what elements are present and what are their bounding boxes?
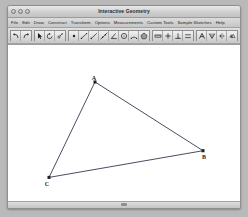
segments-layer <box>49 82 203 177</box>
toolbar <box>8 28 240 44</box>
segment-CA[interactable] <box>49 82 95 177</box>
polygon-icon <box>140 32 148 40</box>
vertex-label-A[interactable]: A <box>92 75 97 81</box>
rotate-button[interactable] <box>45 31 55 41</box>
horizontal-scrollbar[interactable] <box>8 201 240 208</box>
perpendicular-icon <box>174 32 182 40</box>
rotate-icon <box>46 32 54 40</box>
text-label-button[interactable] <box>197 31 207 41</box>
marker-icon <box>208 32 216 40</box>
point-button[interactable] <box>69 31 79 41</box>
toolbar-group-annotation <box>196 30 238 41</box>
menu-item-custom-tools[interactable]: Custom Tools <box>147 18 174 27</box>
geometry-sketch[interactable]: ABC <box>8 45 240 201</box>
vertex-point-C[interactable] <box>48 176 51 179</box>
polygon-button[interactable] <box>139 31 149 41</box>
vertex-point-B[interactable] <box>202 149 205 152</box>
vertex-label-C[interactable]: C <box>45 181 49 187</box>
toolbar-group-measurement <box>152 30 194 41</box>
vertex-label-B[interactable]: B <box>202 154 206 160</box>
perpendicular-button[interactable] <box>173 31 183 41</box>
window-title: Interactive Geometry <box>8 6 240 17</box>
parallel-button[interactable] <box>183 31 193 41</box>
labels-layer: ABC <box>45 75 206 187</box>
point-icon <box>70 32 78 40</box>
arc-button[interactable] <box>129 31 139 41</box>
text-label-icon <box>198 32 206 40</box>
menu-item-options[interactable]: Options <box>95 18 110 27</box>
menu-item-measurements[interactable]: Measurements <box>114 18 143 27</box>
ruler-icon <box>154 32 162 40</box>
line-button[interactable] <box>99 31 109 41</box>
menu-item-transform[interactable]: Transform <box>71 18 91 27</box>
menu-item-sample-sketches[interactable]: Sample Sketches <box>177 18 211 27</box>
scrollbar-thumb[interactable] <box>121 203 127 206</box>
zoom-button[interactable] <box>25 9 30 14</box>
segment-BC[interactable] <box>49 151 203 178</box>
arrow-select-button[interactable] <box>35 31 45 41</box>
arc-icon <box>130 32 138 40</box>
menu-item-edit[interactable]: Edit <box>22 18 30 27</box>
angle-button[interactable] <box>109 31 119 41</box>
toolbar-group-selection <box>34 30 66 41</box>
marker-button[interactable] <box>207 31 217 41</box>
menu-item-construct[interactable]: Construct <box>48 18 67 27</box>
title-bar[interactable]: Interactive Geometry <box>8 6 240 18</box>
redo-button[interactable] <box>21 31 31 41</box>
parallel-icon <box>184 32 192 40</box>
close-button[interactable] <box>11 9 16 14</box>
application-window: Interactive Geometry File Edit Draw Cons… <box>7 5 241 209</box>
sketch-canvas[interactable]: ABC <box>8 44 240 201</box>
segment-icon <box>80 32 88 40</box>
menu-item-file[interactable]: File <box>11 18 18 27</box>
dilate-button[interactable] <box>55 31 65 41</box>
ruler-button[interactable] <box>153 31 163 41</box>
arrow-select-icon <box>36 32 44 40</box>
reflect-icon <box>218 32 226 40</box>
ray-icon <box>90 32 98 40</box>
dilate-icon <box>56 32 64 40</box>
undo-icon <box>12 32 20 40</box>
translate-icon <box>228 32 236 40</box>
reflect-button[interactable] <box>217 31 227 41</box>
circle-icon <box>120 32 128 40</box>
minimize-button[interactable] <box>18 9 23 14</box>
menu-item-draw[interactable]: Draw <box>34 18 44 27</box>
plus-icon <box>164 32 172 40</box>
menu-item-help[interactable]: Help <box>216 18 225 27</box>
calculate-button[interactable] <box>163 31 173 41</box>
ray-button[interactable] <box>89 31 99 41</box>
segment-button[interactable] <box>79 31 89 41</box>
line-icon <box>100 32 108 40</box>
segment-AB[interactable] <box>95 82 203 151</box>
menu-bar: File Edit Draw Construct Transform Optio… <box>8 18 240 28</box>
redo-icon <box>22 32 30 40</box>
circle-button[interactable] <box>119 31 129 41</box>
toolbar-group-drawing <box>68 30 150 41</box>
toolbar-group-view <box>240 30 241 41</box>
undo-button[interactable] <box>11 31 21 41</box>
window-controls <box>11 9 30 14</box>
angle-icon <box>110 32 118 40</box>
translate-button[interactable] <box>227 31 237 41</box>
toolbar-group-history <box>10 30 32 41</box>
